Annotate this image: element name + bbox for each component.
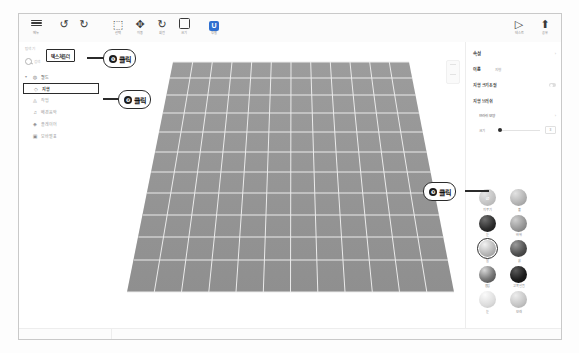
brush-shape-chevron-icon[interactable]: › xyxy=(555,113,556,118)
tree-item-terrain[interactable]: ◇ 지형 xyxy=(23,83,99,94)
callout-1-number: ❶ xyxy=(109,55,117,63)
brush-size-row: 크기 3 xyxy=(479,126,556,134)
material-cell-eraser[interactable]: ⌀ 지우기 xyxy=(474,189,501,212)
callout-1: ❶ 클릭 xyxy=(103,49,136,68)
callout-1-text: 클릭 xyxy=(119,54,130,64)
menu-button[interactable]: 메뉴 xyxy=(25,18,47,36)
tree-item-label: 지형 xyxy=(42,86,50,92)
explorer-highlight-chip[interactable]: 텍스쳐폴더 xyxy=(46,49,75,62)
viewport-float-widget[interactable] xyxy=(446,60,460,84)
property-label: 이름 xyxy=(473,66,481,72)
material-cell-dirt[interactable]: 흙 xyxy=(505,240,532,263)
material-label: 지우기 xyxy=(474,208,501,212)
material-sphere xyxy=(510,215,527,232)
publish-button[interactable]: ⬆ 공유 xyxy=(532,18,558,36)
play-button[interactable]: ▷ 테스트 xyxy=(506,18,532,36)
redo-button[interactable]: ↻ xyxy=(73,18,95,30)
brush-size-slider-track[interactable] xyxy=(499,130,540,131)
material-cell-snow2[interactable]: 눈 xyxy=(474,291,501,314)
hamburger-icon xyxy=(25,18,47,30)
terrain-grid[interactable] xyxy=(111,42,466,329)
tree-item-world[interactable]: ▾ ◍ 월드 xyxy=(23,71,108,83)
tree-item-label: 작업 xyxy=(41,97,49,103)
scale-label: 크기 xyxy=(173,31,195,36)
material-sphere xyxy=(510,240,527,257)
chevron-down-icon: ▾ xyxy=(25,75,29,79)
move-icon: ✥ xyxy=(129,18,151,30)
material-label: 용암 xyxy=(474,284,501,288)
explorer-chip-label: 텍스쳐폴더 xyxy=(51,53,70,59)
move-tool-button[interactable]: ✥ 이동 xyxy=(129,18,151,36)
screenshot-root: 메뉴 ↺ ↻ ⬚ 선택 ✥ 이동 ↻ 회전 크기 xyxy=(0,0,579,353)
material-cell-lava[interactable]: 용암 xyxy=(474,266,501,289)
tree-item-label: 배경음악 xyxy=(41,109,57,115)
material-cell-grass[interactable]: 풀 xyxy=(505,189,532,212)
rotate-label: 회전 xyxy=(151,31,173,36)
undo-button[interactable]: ↺ xyxy=(53,18,75,30)
material-sphere xyxy=(479,215,496,232)
select-tool-button[interactable]: ⬚ 선택 xyxy=(107,18,129,36)
tree-item-objects[interactable]: ▣ 모바별표 xyxy=(23,130,108,142)
upload-icon: ⬆ xyxy=(532,18,558,30)
status-bar xyxy=(19,328,561,339)
callout-2-text: 클릭 xyxy=(134,95,145,105)
property-label: 지형 브러쉬 xyxy=(473,98,493,104)
explorer-tree: ▾ ◍ 월드 ◇ 지형 ◬ 작업 ♫ 배경음악 ◈ xyxy=(23,71,108,142)
scale-tool-button[interactable]: 크기 xyxy=(173,18,195,36)
material-grid: ⌀ 지우기 풀 눈 바위 물 xyxy=(474,189,556,317)
material-cell-ice[interactable]: 고목 얼음 xyxy=(505,266,532,289)
search-placeholder: 검색 xyxy=(34,59,40,64)
material-label: 흙 xyxy=(505,259,532,263)
callout-2-number: ❷ xyxy=(124,96,132,104)
properties-header-row: 속성 › xyxy=(473,50,556,56)
rotate-icon: ↻ xyxy=(151,18,173,30)
chevron-right-icon[interactable]: › xyxy=(555,51,556,56)
align-label: 정렬 xyxy=(203,31,225,36)
callout-3: ❸ 클릭 xyxy=(423,182,456,201)
play-label: 테스트 xyxy=(506,31,532,36)
select-label: 선택 xyxy=(107,31,129,36)
property-row-terrain-resize: 지형 크기조절 xyxy=(473,82,556,88)
material-sphere-selected xyxy=(479,240,496,257)
publish-label: 공유 xyxy=(532,31,558,36)
brush-size-slider-knob[interactable] xyxy=(498,128,502,132)
property-value: 지형 xyxy=(495,67,501,72)
material-cell-water[interactable]: 물 xyxy=(474,240,501,263)
align-tool-button[interactable]: U 정렬 xyxy=(203,18,225,36)
terrain-resize-toggle[interactable] xyxy=(549,83,556,87)
properties-header: 속성 xyxy=(473,50,481,56)
menu-label: 메뉴 xyxy=(25,31,47,36)
material-sphere xyxy=(479,291,496,308)
tree-item-bgm[interactable]: ♫ 배경음악 xyxy=(23,106,108,118)
material-cell-sand[interactable]: 모래 xyxy=(505,291,532,314)
viewport-3d[interactable] xyxy=(111,42,466,329)
callout-3-leader xyxy=(465,190,489,192)
tree-item-work[interactable]: ◬ 작업 xyxy=(23,94,108,106)
move-label: 이동 xyxy=(129,31,151,36)
brush-size-value[interactable]: 3 xyxy=(545,126,556,134)
callout-3-text: 클릭 xyxy=(439,187,450,197)
tree-item-label: 모바별표 xyxy=(41,133,57,139)
tree-item-player[interactable]: ◈ 플레이어 xyxy=(23,118,108,130)
material-sphere xyxy=(510,266,527,283)
property-row-name: 이름 지형 xyxy=(473,66,556,72)
material-cell-snow[interactable]: 눈 xyxy=(474,215,501,238)
property-row-terrain-brush: 지형 브러쉬 xyxy=(473,98,556,104)
material-sphere xyxy=(510,189,527,206)
redo-icon: ↻ xyxy=(73,18,95,30)
property-label: 지형 크기조절 xyxy=(473,82,497,88)
tree-item-label: 월드 xyxy=(41,74,49,80)
material-label: 모래 xyxy=(505,310,532,314)
material-sphere xyxy=(510,291,527,308)
material-label: 바위 xyxy=(505,233,532,237)
explorer-panel: 탐색기 검색 ▾ ◍ 월드 ◇ 지형 ◬ 작업 xyxy=(19,42,112,329)
person-icon: ◈ xyxy=(32,121,38,127)
select-icon: ⬚ xyxy=(107,18,129,30)
brush-shape-row: 브러쉬 모양 › xyxy=(479,113,556,118)
rotate-tool-button[interactable]: ↻ 회전 xyxy=(151,18,173,36)
explorer-title: 탐색기 xyxy=(25,46,35,51)
material-label: 눈 xyxy=(474,233,501,237)
material-cell-rock[interactable]: 바위 xyxy=(505,215,532,238)
globe-icon: ◍ xyxy=(32,74,38,80)
brush-size-label: 크기 xyxy=(479,128,485,133)
